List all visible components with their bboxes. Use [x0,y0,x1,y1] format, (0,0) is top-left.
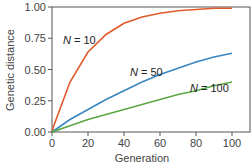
y-tick-label: 0.75 [25,32,46,44]
plot-area: 0.000.250.500.751.00020406080100N = 10N … [25,1,250,149]
x-axis-label: Generation [115,152,169,164]
y-tick-label: 0.25 [25,95,46,107]
annotation-label: N = 100 [190,82,229,94]
x-tick-label: 100 [223,137,241,149]
x-tick-label: 60 [154,137,166,149]
y-axis-label: Genetic distance [4,29,16,111]
y-tick-label: 1.00 [25,1,46,13]
chart: 0.000.250.500.751.00020406080100N = 10N … [0,0,251,165]
y-tick-label: 0.50 [25,64,46,76]
y-tick-label: 0.00 [25,126,46,138]
x-tick-label: 80 [190,137,202,149]
x-tick-label: 20 [82,137,94,149]
annotation-label: N = 50 [130,66,163,78]
x-tick-label: 0 [49,137,55,149]
annotation-label: N = 10 [63,34,96,46]
x-tick-label: 40 [118,137,130,149]
